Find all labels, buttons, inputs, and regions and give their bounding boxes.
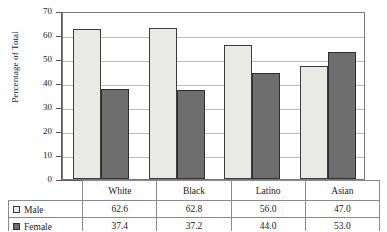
bar-black-female	[177, 90, 205, 179]
table-corner-cell	[9, 181, 83, 201]
y-tick-label: 40	[30, 79, 52, 88]
table-cell-female-white: 37.4	[83, 218, 157, 232]
y-tick-label: 70	[30, 7, 52, 16]
bar-asian-male	[300, 66, 328, 179]
table-header-row: WhiteBlackLatinoAsian	[9, 181, 380, 201]
table-cell-female-latino: 44.0	[231, 218, 305, 232]
bar-group-white	[63, 13, 139, 179]
y-tick-label: 30	[30, 103, 52, 112]
y-tick-label: 50	[30, 55, 52, 64]
table-row: Female37.437.244.053.0	[9, 218, 380, 232]
column-header-asian: Asian	[305, 181, 379, 201]
table-cell-female-black: 37.2	[157, 218, 231, 232]
table-row: Male62.662.856.047.0	[9, 201, 380, 218]
male-swatch	[13, 206, 20, 213]
table-cell-male-white: 62.6	[83, 201, 157, 218]
bar-group-black	[139, 13, 215, 179]
plot-area	[62, 12, 365, 180]
table-cell-female-asian: 53.0	[305, 218, 379, 232]
legend-label: Female	[24, 221, 52, 231]
y-tick-label: 60	[30, 31, 52, 40]
bar-group-latino	[215, 13, 291, 179]
column-header-white: White	[83, 181, 157, 201]
table-cell-male-asian: 47.0	[305, 201, 379, 218]
bar-white-male	[73, 29, 101, 179]
bar-group-asian	[290, 13, 366, 179]
bar-latino-male	[224, 45, 252, 179]
table-cell-male-black: 62.8	[157, 201, 231, 218]
bar-black-male	[149, 28, 177, 179]
female-swatch	[13, 223, 20, 230]
column-header-latino: Latino	[231, 181, 305, 201]
bar-latino-female	[252, 73, 280, 179]
legend-item-male: Male	[9, 201, 83, 218]
y-tick-label: 20	[30, 127, 52, 136]
legend-item-female: Female	[9, 218, 83, 232]
bar-asian-female	[328, 52, 356, 179]
chart-figure: Percentage of Total 706050403020100 Whit…	[0, 0, 387, 231]
y-axis-title: Percentage of Total	[10, 7, 20, 127]
column-header-black: Black	[157, 181, 231, 201]
bar-white-female	[101, 89, 129, 179]
table-cell-male-latino: 56.0	[231, 201, 305, 218]
data-table: WhiteBlackLatinoAsianMale62.662.856.047.…	[8, 180, 380, 231]
y-tick-label: 10	[30, 151, 52, 160]
legend-label: Male	[24, 204, 44, 214]
